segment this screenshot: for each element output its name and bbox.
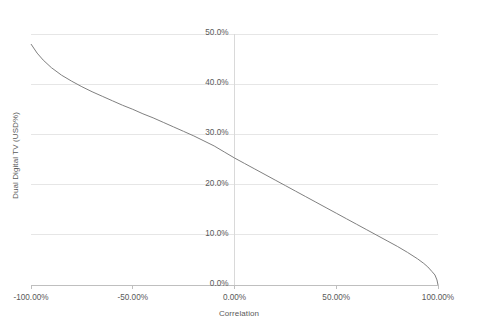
chart-container: 0.0%10.0%20.0%30.0%40.0%50.0% -100.00%-5… (0, 0, 478, 336)
x-axis-tick-label: -50.00% (98, 293, 168, 302)
x-axis-tick-label: 100.00% (403, 293, 473, 302)
x-axis-tickmarks-group (31, 285, 438, 289)
chart-plot-area (0, 0, 478, 336)
y-axis-tick-label: 30.0% (183, 128, 229, 137)
x-axis-title: Correlation (0, 309, 478, 318)
x-axis-tick-label: 50.00% (301, 293, 371, 302)
y-axis-tick-label: 10.0% (183, 229, 229, 238)
y-axis-tick-label: 20.0% (183, 179, 229, 188)
x-axis-tick-label: -100.00% (0, 293, 66, 302)
y-axis-tick-label: 50.0% (183, 28, 229, 37)
y-axis-tick-label: 0.0% (183, 279, 229, 288)
y-axis-title: Dual Digital TV (USD%) (11, 101, 20, 211)
y-axis-tick-label: 40.0% (183, 78, 229, 87)
clipped-footer-caption (0, 330, 478, 336)
x-axis-tick-label: 0.00% (200, 293, 270, 302)
